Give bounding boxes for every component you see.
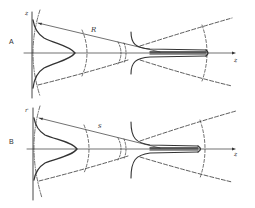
- panel-a-vertical-axis-label: z: [25, 9, 28, 16]
- panel-a-label: A: [9, 38, 14, 45]
- panel-a-upper-envelope-out: [140, 18, 232, 46]
- panel-a-axis-arrow: [232, 52, 236, 55]
- panel-a-radius-label: R: [91, 26, 96, 34]
- panel-b-label: B: [9, 138, 14, 145]
- panel-a-lower-envelope-out: [140, 60, 232, 86]
- panel-b-source-wavefront: [34, 106, 42, 198]
- panel-b-lower-envelope-out: [140, 157, 232, 182]
- panel-b-radius-arrowhead: [39, 118, 43, 120]
- beam-focusing-diagram: A z R z B r s z: [0, 0, 255, 208]
- panel-b-radius-label: s: [98, 122, 102, 130]
- panel-a-radius-arrowhead: [38, 23, 42, 25]
- panel-b-vertical-axis-label: r: [25, 106, 28, 113]
- panel-a-cusp-upper: [131, 32, 206, 50]
- panel-b-graphics: [27, 106, 236, 200]
- panel-a-horizontal-axis-label: z: [234, 56, 237, 63]
- panel-b-upper-envelope-out: [140, 111, 236, 141]
- diagram-graphics: [0, 0, 255, 208]
- panel-a-graphics: [24, 10, 236, 98]
- panel-a-cusp-lower: [131, 56, 206, 74]
- panel-b-cusp-lower: [131, 152, 198, 178]
- panel-a-lower-envelope-in: [38, 60, 128, 85]
- panel-b-horizontal-axis-label: z: [234, 150, 237, 157]
